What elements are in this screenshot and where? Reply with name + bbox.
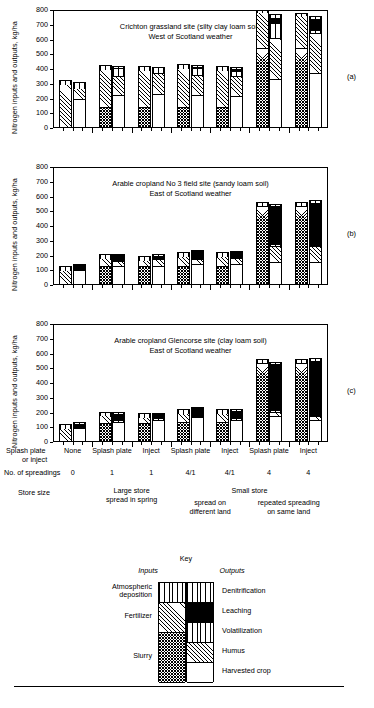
output-segment xyxy=(153,95,164,128)
key-input-label: Atmosphericdeposition xyxy=(112,583,152,600)
output-segment xyxy=(310,246,321,247)
output-bar xyxy=(191,65,204,128)
bars-layer xyxy=(53,10,328,128)
x-group-divider xyxy=(132,128,133,133)
input-segment xyxy=(100,70,111,108)
x-group-divider xyxy=(249,128,250,133)
input-segment xyxy=(178,257,189,266)
axis-row1-value: Splash plate xyxy=(249,446,289,455)
y-axis-label: Nitrogen inputs and outputs, kg/ha xyxy=(10,178,19,291)
key-title: Key xyxy=(180,554,192,563)
output-segment xyxy=(192,417,203,418)
x-tick-mark xyxy=(259,128,260,131)
output-segment xyxy=(74,83,85,90)
output-bar xyxy=(112,66,125,128)
bottom-rule xyxy=(14,686,344,687)
output-segment xyxy=(270,363,281,364)
output-segment xyxy=(113,261,124,262)
output-segment xyxy=(270,413,281,417)
input-segment xyxy=(100,66,111,70)
output-bar xyxy=(112,254,125,285)
y-tick-label: 500 xyxy=(26,50,48,57)
input-segment xyxy=(217,108,228,128)
output-segment xyxy=(310,416,321,417)
x-tick-mark xyxy=(102,285,103,288)
output-segment xyxy=(192,66,203,67)
key-output-swatch xyxy=(187,603,213,623)
input-segment xyxy=(217,67,228,71)
input-segment xyxy=(100,267,111,285)
output-segment xyxy=(270,39,281,80)
x-group-divider xyxy=(210,285,211,290)
output-segment xyxy=(310,19,321,31)
axis-row1-label-line1: Splash plate xyxy=(6,446,46,455)
x-tick-mark xyxy=(161,285,162,288)
output-segment xyxy=(231,419,242,420)
axis-row3-value: on same land xyxy=(267,507,310,516)
input-segment xyxy=(100,108,111,128)
x-tick-mark xyxy=(191,128,192,131)
x-group-divider xyxy=(132,442,133,447)
output-segment xyxy=(74,271,85,285)
y-tick-mark xyxy=(50,99,53,100)
y-tick-mark xyxy=(50,383,53,384)
y-tick-mark xyxy=(50,324,53,325)
y-tick-mark xyxy=(50,368,53,369)
output-bar xyxy=(73,422,86,442)
y-tick-label: 300 xyxy=(26,394,48,401)
output-segment xyxy=(192,67,203,69)
x-tick-mark xyxy=(73,285,74,288)
axis-row3-value: repeated spreading xyxy=(258,498,320,507)
output-segment xyxy=(310,421,321,442)
plot-area xyxy=(53,10,328,128)
y-tick-mark xyxy=(50,413,53,414)
x-tick-mark xyxy=(102,442,103,445)
input-segment xyxy=(217,267,228,285)
input-bar xyxy=(216,409,229,442)
output-bar xyxy=(309,358,322,442)
output-segment xyxy=(192,69,203,76)
axis-row1-value: Inject xyxy=(221,446,238,455)
bars-layer xyxy=(53,167,328,285)
x-tick-mark xyxy=(308,285,309,288)
x-tick-mark xyxy=(220,285,221,288)
input-segment xyxy=(296,203,307,206)
axis-row2-value: 4 xyxy=(306,468,310,477)
input-segment xyxy=(217,253,228,257)
x-tick-mark xyxy=(141,285,142,288)
x-tick-mark xyxy=(279,285,280,288)
output-segment xyxy=(270,411,281,412)
output-segment xyxy=(192,251,203,259)
input-segment xyxy=(257,203,268,206)
axis-row1-value: Inject xyxy=(300,446,317,455)
x-tick-mark xyxy=(122,285,123,288)
x-tick-mark xyxy=(151,128,152,131)
axis-row1-value: Inject xyxy=(143,446,160,455)
axis-row1-value: Splash plate xyxy=(92,446,132,455)
key-output-swatch xyxy=(187,663,213,683)
y-tick-mark xyxy=(50,182,53,183)
x-tick-mark xyxy=(112,128,113,131)
x-group-divider xyxy=(249,285,250,290)
output-segment xyxy=(113,68,124,69)
panel-title-line1: Arable cropland Glencorse site (clay loa… xyxy=(53,336,328,345)
axis-row2-value: 0 xyxy=(71,468,75,477)
key-output-label: Leaching xyxy=(222,607,251,615)
x-group-divider xyxy=(92,128,93,133)
output-segment xyxy=(74,428,85,429)
y-tick-mark xyxy=(50,40,53,41)
input-segment xyxy=(257,206,268,207)
input-segment xyxy=(178,267,189,285)
input-bar xyxy=(295,359,308,442)
panel-label: (c) xyxy=(347,386,356,395)
output-segment xyxy=(113,423,124,442)
input-segment xyxy=(100,259,111,266)
x-tick-mark xyxy=(122,442,123,445)
input-segment xyxy=(139,414,150,418)
axis-row1-label-line2: or inject xyxy=(22,455,47,464)
output-segment xyxy=(231,259,242,265)
input-segment xyxy=(296,14,307,16)
input-segment xyxy=(139,267,150,285)
input-segment xyxy=(296,16,307,49)
x-group-divider xyxy=(92,285,93,290)
